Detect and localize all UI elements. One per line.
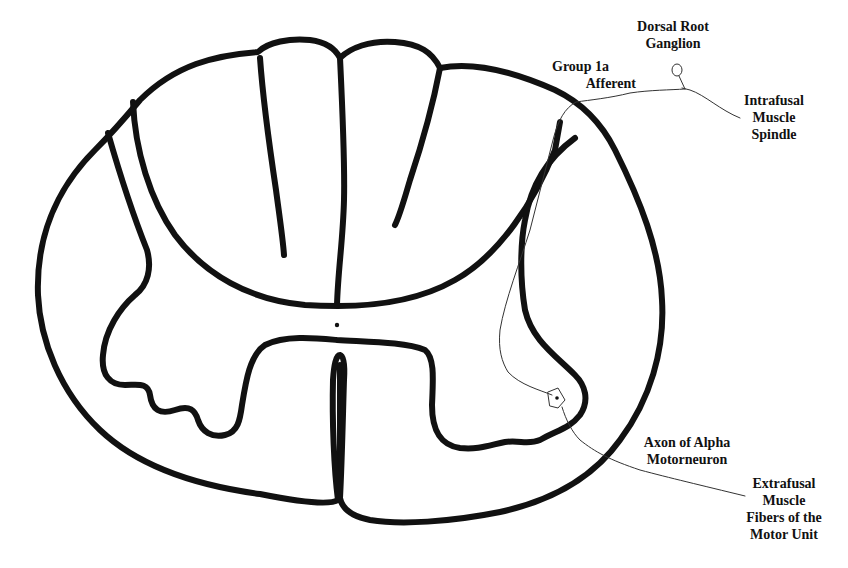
label-line: Motor Unit: [736, 526, 832, 543]
label-line: Afferent: [552, 75, 636, 92]
left-dorsal-septum: [260, 58, 284, 255]
label-line: Muscle: [735, 109, 813, 126]
right-dorsal-septum: [395, 68, 440, 225]
alpha-motorneuron-nucleus: [555, 396, 559, 400]
group-1a-afferent-fiber: [499, 76, 740, 395]
label-axon-alpha-motorneuron: Axon of Alpha Motorneuron: [632, 434, 742, 468]
label-line: Fibers of the: [736, 509, 832, 526]
central-canal: [335, 323, 339, 327]
spinal-cord-diagram: [0, 0, 848, 568]
dorsal-root-ganglion-cell: [672, 64, 682, 76]
label-line: Group 1a: [552, 58, 636, 75]
label-line: Extrafusal: [736, 475, 832, 492]
label-line: Axon of Alpha: [632, 434, 742, 451]
label-intrafusal-muscle-spindle: Intrafusal Muscle Spindle: [735, 92, 813, 143]
label-line: Muscle: [736, 492, 832, 509]
label-line: Spindle: [735, 126, 813, 143]
label-extrafusal-muscle-fibers: Extrafusal Muscle Fibers of the Motor Un…: [736, 475, 832, 543]
label-line: Dorsal Root: [612, 18, 734, 35]
label-line: Intrafusal: [735, 92, 813, 109]
label-group-1a-afferent: Group 1a Afferent: [552, 58, 636, 92]
label-dorsal-root-ganglion: Dorsal Root Ganglion: [612, 18, 734, 52]
posterior-median-septum: [337, 58, 344, 305]
label-line: Ganglion: [612, 35, 734, 52]
label-line: Motorneuron: [632, 451, 742, 468]
